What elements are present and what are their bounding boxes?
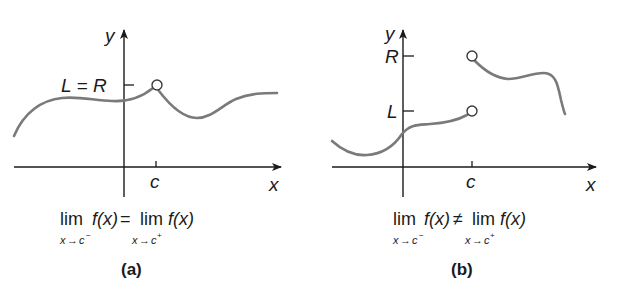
panel-b: y x c R L lim f(x) ≠ lim f(x) x → c − x … <box>332 23 597 279</box>
c-label-b: c <box>466 171 476 192</box>
left-sub-target-a: c <box>79 234 85 246</box>
function-curve-a-right <box>159 91 277 118</box>
panel-a: y x c L = R lim f(x) = lim f(x) x → c − … <box>14 25 281 279</box>
limit-equation-a: lim f(x) = lim f(x) x → c − x → c + <box>59 209 194 246</box>
left-sub-var-a: x <box>59 234 66 246</box>
right-sub-var-b: x <box>464 234 471 246</box>
lim-left-b: lim <box>393 209 416 229</box>
left-sub-sign-a: − <box>86 231 91 240</box>
y-axis-label-a: y <box>103 25 116 46</box>
lhs-a: f(x) <box>92 209 118 229</box>
left-sub-arrow-a: → <box>67 234 78 246</box>
x-axis-label-a: x <box>268 174 280 195</box>
function-curve-b-lower <box>332 115 467 155</box>
rhs-a: f(x) <box>168 209 194 229</box>
open-circle-b-upper <box>467 51 477 61</box>
caption-a: (a) <box>121 260 142 279</box>
right-sub-arrow-b: → <box>472 234 483 246</box>
y-axis-label-b: y <box>383 23 396 44</box>
right-sub-sign-a: + <box>157 231 162 240</box>
relation-b: ≠ <box>453 209 463 229</box>
left-sub-target-b: c <box>412 234 418 246</box>
lim-left-a: lim <box>60 209 83 229</box>
relation-a: = <box>120 209 131 229</box>
c-label-a: c <box>150 171 160 192</box>
lhs-b: f(x) <box>424 209 450 229</box>
left-sub-arrow-b: → <box>400 234 411 246</box>
limits-figure: y x c L = R lim f(x) = lim f(x) x → c − … <box>0 0 618 301</box>
right-sub-sign-b: + <box>490 231 495 240</box>
function-curve-b-upper <box>475 61 565 114</box>
r-label-b: R <box>385 46 399 67</box>
x-axis-label-b: x <box>585 174 597 195</box>
right-sub-arrow-a: → <box>139 234 150 246</box>
l-label-b: L <box>387 101 398 122</box>
lim-right-a: lim <box>140 209 163 229</box>
open-circle-a <box>152 80 162 90</box>
open-circle-b-lower <box>467 106 477 116</box>
caption-b: (b) <box>451 260 473 279</box>
right-sub-var-a: x <box>131 234 138 246</box>
limit-equation-b: lim f(x) ≠ lim f(x) x → c − x → c + <box>392 209 526 246</box>
l-equals-r-label-a: L = R <box>61 75 107 96</box>
lim-right-b: lim <box>472 209 495 229</box>
left-sub-var-b: x <box>392 234 399 246</box>
rhs-b: f(x) <box>500 209 526 229</box>
left-sub-sign-b: − <box>419 231 424 240</box>
